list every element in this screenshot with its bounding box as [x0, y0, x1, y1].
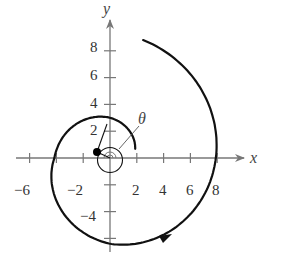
y-tick-label: 6 — [90, 67, 98, 83]
x-axis-label: x — [249, 149, 257, 166]
y-tick-label: 4 — [90, 95, 98, 111]
spiral-curve — [51, 40, 216, 245]
y-tick-label: −4 — [80, 208, 96, 224]
y-tick-label: 2 — [90, 122, 98, 138]
x-tick-label: −2 — [67, 182, 83, 198]
theta-label: θ — [138, 110, 146, 127]
x-tick-label: 6 — [186, 182, 194, 198]
spiral-diagram: −6 −2 2 4 6 8 8 6 4 2 −4 x y θ — [0, 0, 304, 262]
y-axis-label: y — [101, 0, 111, 18]
x-tick-label: −6 — [14, 182, 30, 198]
x-tick-label: 4 — [159, 182, 167, 198]
x-tick-label: 2 — [132, 182, 140, 198]
y-tick-label: 8 — [90, 39, 98, 55]
x-tick-label: 8 — [212, 182, 220, 198]
point-marker — [93, 148, 101, 156]
